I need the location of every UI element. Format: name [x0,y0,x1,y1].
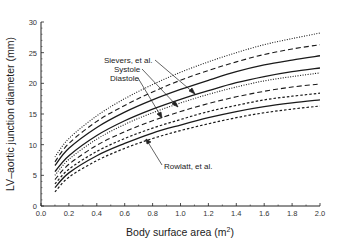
annotation-systole: Systole [114,65,141,74]
series-line-8 [55,106,320,192]
y-tick-label: 30 [29,18,37,27]
x-tick-label: 0.2 [64,209,74,218]
annotation-diastole: Diastole [110,74,139,83]
x-axis-title: Body surface area (m2) [126,226,234,238]
x-tick-label: 0.0 [36,209,46,218]
x-tick-label: 1.2 [203,209,213,218]
y-tick-label: 15 [29,110,37,119]
annotation-rowlatt: Rowlatt, et al. [164,162,212,171]
y-tick-label: 5 [33,171,37,180]
x-tick-label: 0.6 [119,209,129,218]
ticks: 0.00.20.40.60.81.01.21.41.61.82.00510152… [29,18,326,218]
series-line-7 [55,100,320,188]
axes [41,22,320,206]
series-line-4 [55,73,320,175]
y-tick-label: 25 [29,49,37,58]
annotation-arrows [138,60,195,165]
x-tick-label: 2.0 [315,209,325,218]
annotation-sievers: Sievers, et al. [104,56,152,65]
x-tick-label: 1.8 [287,209,297,218]
y-axis-title: LV–aortic junction diameter (mm) [4,37,16,191]
x-tick-label: 1.4 [231,209,241,218]
x-tick-label: 1.6 [259,209,269,218]
y-tick-label: 10 [29,141,37,150]
x-tick-label: 0.4 [92,209,102,218]
x-tick-label: 0.8 [147,209,157,218]
y-tick-label: 0 [33,202,37,211]
y-tick-label: 20 [29,79,37,88]
x-tick-label: 1.0 [175,209,185,218]
chart: 0.00.20.40.60.81.01.21.41.61.82.00510152… [0,0,341,250]
